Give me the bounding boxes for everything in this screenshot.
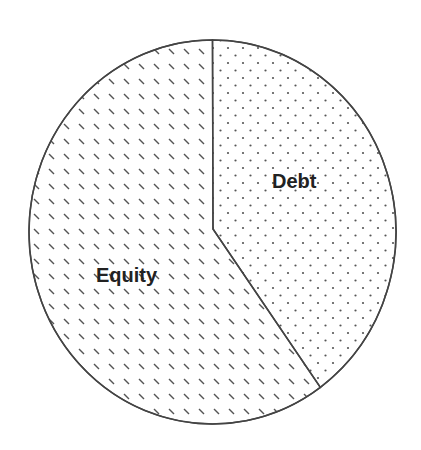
pie-slices (29, 40, 396, 424)
slice-label-equity: Equity (96, 264, 158, 286)
slice-label-debt: Debt (272, 170, 317, 192)
pie-chart: Debt Equity (0, 0, 421, 450)
